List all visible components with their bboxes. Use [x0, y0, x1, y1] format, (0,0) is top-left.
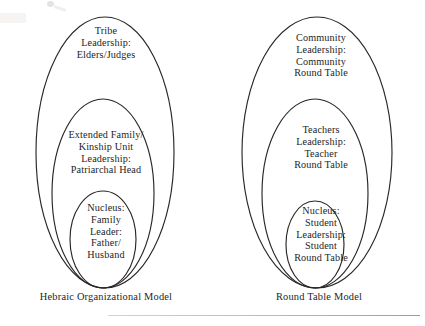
model-hebraic: Tribe Leadership: Elders/Judges Extended…	[0, 0, 212, 326]
text-line: Patriarchal Head	[26, 164, 186, 176]
hebraic-inner-label: Nucleus: Family Leader: Father/ Husband	[46, 202, 166, 261]
text-line: Leadership:	[253, 44, 389, 56]
roundtable-caption: Round Table Model	[213, 291, 425, 302]
roundtable-inner-label: Nucleus: Student Leadership: Student Rou…	[249, 205, 393, 264]
roundtable-middle-label: Teachers Leadership: Teacher Round Table	[253, 124, 389, 171]
text-line: Round Table	[249, 252, 393, 264]
text-line: Student	[249, 240, 393, 252]
text-line: Extended Family/	[26, 129, 186, 141]
hebraic-outer-label: Tribe Leadership: Elders/Judges	[36, 25, 176, 60]
text-line: Leadership:	[249, 229, 393, 241]
text-line: Round Table	[253, 67, 389, 79]
page-rule	[108, 315, 420, 316]
text-line: Leadership:	[36, 37, 176, 49]
text-line: Teacher	[253, 148, 389, 160]
text-line: Student	[249, 217, 393, 229]
hebraic-middle-label: Extended Family/ Kinship Unit Leadership…	[26, 129, 186, 176]
text-line: Nucleus:	[249, 205, 393, 217]
text-line: Leadership:	[26, 153, 186, 165]
text-line: Round Table	[253, 159, 389, 171]
hebraic-caption: Hebraic Organizational Model	[0, 291, 212, 302]
text-line: Teachers	[253, 124, 389, 136]
text-line: Nucleus:	[46, 202, 166, 214]
figure-root: Tribe Leadership: Elders/Judges Extended…	[0, 0, 425, 326]
roundtable-outer-label: Community Leadership: Community Round Ta…	[253, 32, 389, 79]
text-line: Leadership:	[253, 136, 389, 148]
text-line: Husband	[46, 249, 166, 261]
model-roundtable: Community Leadership: Community Round Ta…	[213, 0, 425, 326]
text-line: Family	[46, 214, 166, 226]
text-line: Father/	[46, 237, 166, 249]
text-line: Community	[253, 32, 389, 44]
text-line: Elders/Judges	[36, 49, 176, 61]
text-line: Kinship Unit	[26, 141, 186, 153]
text-line: Community	[253, 56, 389, 68]
text-line: Tribe	[36, 25, 176, 37]
text-line: Leader:	[46, 226, 166, 238]
